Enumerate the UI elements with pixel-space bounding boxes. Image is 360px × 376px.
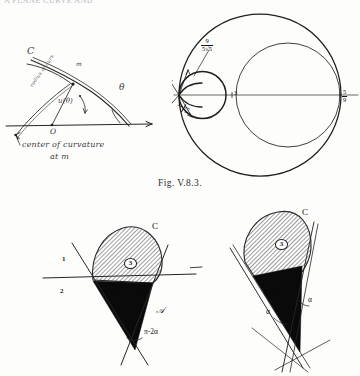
fig-bottom-left-drawing [20,202,200,376]
curve-label-c-bottom-right: C [302,208,308,217]
region-2-label: 2 [60,288,64,295]
running-head: A PLANE CURVE AND [4,0,214,5]
fig-bottom-right-drawing [190,200,360,376]
origin-label-o: O [50,128,56,136]
angle-theta-label: θ [119,83,125,92]
fig-top-left-drawing [0,14,175,179]
support-function-label: u(θ) [58,98,73,105]
angle-alpha-left-label: α [266,308,270,316]
region-a-label: 𝒜 [156,306,165,315]
region-3-label-bottom-left: 3 [124,258,137,269]
black-cone-shape [253,266,302,352]
point-m-dot [71,82,74,85]
label-5-over-9: 5 9 [342,89,347,104]
fraction-denominator: 5√5 [201,45,213,53]
curve-label-c-top-left: C [27,46,34,56]
center-of-curvature-note-line2: at m [50,153,69,161]
region-3-label-bottom-right: 3 [275,239,288,250]
origin-dot [51,124,54,127]
scanned-page: A PLANE CURVE AND [0,0,360,376]
fraction-numerator: 5 [342,89,347,96]
angle-alpha-right-label: α [308,296,312,304]
center-of-curvature-dot [14,134,17,137]
axis-mark-3: 3 [234,90,237,97]
tangent-foot-dot [79,95,81,97]
angle-pi-minus-2alpha-label: π-2α [144,328,158,336]
region-3-shape [93,227,163,283]
fraction-numerator: 9 [201,38,213,45]
fraction-denominator: 9 [342,96,347,104]
curve-label-c-bottom-left: C [152,222,158,231]
region-1-label: 1 [62,256,66,263]
point-m-label-top-left: m [76,61,82,67]
label-9-over-5root5: 9 5√5 [201,38,213,53]
figure-caption: Fig. V.8.3. [0,178,360,188]
center-of-curvature-note-line1: center of curvature [22,141,104,149]
fig-top-right-drawing [172,12,360,178]
